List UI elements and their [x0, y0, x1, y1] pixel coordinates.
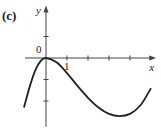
curve-curve — [24, 58, 151, 116]
x-axis-arrow-icon — [149, 56, 156, 61]
panel-label: (c) — [2, 8, 16, 23]
x-axis-label: x — [148, 61, 154, 73]
y-axis-label: y — [35, 4, 41, 16]
graph: (c) 10xy — [0, 0, 161, 131]
origin-label: 0 — [36, 43, 42, 55]
y-axis-arrow-icon — [44, 5, 49, 12]
